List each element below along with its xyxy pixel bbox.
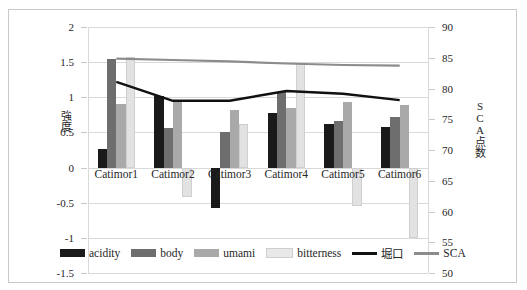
right-tick-label: 65 bbox=[442, 176, 472, 186]
right-tick-label: 60 bbox=[442, 207, 472, 217]
legend-label: 堀口 bbox=[381, 245, 403, 261]
right-tick-dash bbox=[429, 27, 435, 28]
left-tick-dash bbox=[81, 273, 87, 274]
right-tick-label: 80 bbox=[442, 84, 472, 94]
left-tick-label: 1.5 bbox=[44, 57, 74, 67]
legend-swatch-icon-acidity bbox=[60, 249, 85, 257]
right-tick-label: 90 bbox=[442, 22, 472, 32]
line-series-SCA bbox=[116, 59, 399, 66]
legend-label: bitterness bbox=[297, 247, 341, 259]
legend-label: acidity bbox=[89, 247, 120, 259]
legend-label: SCA bbox=[443, 247, 465, 259]
category-label-Catimor2: Catimor2 bbox=[145, 168, 202, 180]
left-tick-dash bbox=[81, 27, 87, 28]
legend-swatch-icon-umami bbox=[194, 249, 219, 257]
legend-item-堀口[interactable]: 堀口 bbox=[352, 245, 403, 261]
right-tick-dash bbox=[429, 58, 435, 59]
left-tick-label: 0 bbox=[44, 163, 74, 173]
left-axis-title: 強度 bbox=[58, 110, 74, 132]
chart-screenshot: 21.510.50-0.5-1-1.5 908580757065605550 強… bbox=[0, 0, 527, 290]
category-label-Catimor5: Catimor5 bbox=[315, 168, 372, 180]
category-label-Catimor3: Catimor3 bbox=[201, 168, 258, 180]
left-tick-dash bbox=[81, 203, 87, 204]
legend-swatch-icon-SCA bbox=[414, 252, 439, 255]
left-tick-label: 1 bbox=[44, 92, 74, 102]
legend-label: umami bbox=[223, 247, 255, 259]
left-tick-dash bbox=[81, 62, 87, 63]
right-tick-dash bbox=[429, 273, 435, 274]
left-tick-dash bbox=[81, 132, 87, 133]
left-tick-dash bbox=[81, 168, 87, 169]
left-tick-label: 2 bbox=[44, 22, 74, 32]
right-axis-title: SCA点数 bbox=[472, 100, 488, 158]
legend-swatch-icon-堀口 bbox=[352, 252, 377, 255]
right-tick-label: 85 bbox=[442, 53, 472, 63]
chart-legend: aciditybodyumamibitterness堀口SCA bbox=[60, 246, 470, 260]
right-tick-dash bbox=[429, 89, 435, 90]
left-tick-label: -0.5 bbox=[44, 198, 74, 208]
legend-label: body bbox=[160, 247, 183, 259]
gridline bbox=[88, 273, 428, 274]
legend-item-umami[interactable]: umami bbox=[194, 247, 255, 259]
left-tick-label: -1.5 bbox=[44, 268, 74, 278]
category-label-Catimor6: Catimor6 bbox=[371, 168, 428, 180]
legend-swatch-icon-body bbox=[131, 249, 156, 257]
left-tick-dash bbox=[81, 238, 87, 239]
left-tick-label: -1 bbox=[44, 233, 74, 243]
right-tick-dash bbox=[429, 150, 435, 151]
line-series-堀口 bbox=[116, 82, 399, 101]
right-tick-dash bbox=[429, 242, 435, 243]
legend-item-acidity[interactable]: acidity bbox=[60, 247, 120, 259]
right-tick-dash bbox=[429, 212, 435, 213]
right-tick-dash bbox=[429, 181, 435, 182]
right-tick-label: 75 bbox=[442, 114, 472, 124]
right-tick-label: 70 bbox=[442, 145, 472, 155]
category-label-Catimor4: Catimor4 bbox=[258, 168, 315, 180]
right-tick-dash bbox=[429, 119, 435, 120]
left-tick-dash bbox=[81, 97, 87, 98]
legend-swatch-icon-bitterness bbox=[266, 248, 293, 258]
line-series-group bbox=[88, 27, 428, 273]
legend-item-bitterness[interactable]: bitterness bbox=[266, 247, 341, 259]
category-label-Catimor1: Catimor1 bbox=[88, 168, 145, 180]
legend-item-body[interactable]: body bbox=[131, 247, 183, 259]
legend-item-SCA[interactable]: SCA bbox=[414, 247, 465, 259]
right-tick-label: 50 bbox=[442, 268, 472, 278]
